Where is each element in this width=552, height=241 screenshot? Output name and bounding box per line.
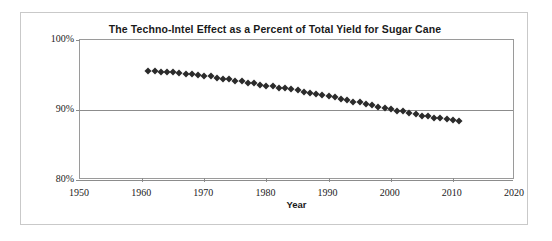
x-tick-label: 2020 bbox=[494, 187, 534, 198]
data-point bbox=[375, 103, 382, 110]
y-tick-mark bbox=[76, 40, 80, 41]
data-point bbox=[207, 73, 214, 80]
y-tick-label: 80% bbox=[22, 173, 74, 184]
x-tick-label: 1980 bbox=[245, 187, 285, 198]
x-tick-mark bbox=[204, 178, 205, 182]
x-tick-label: 1960 bbox=[121, 187, 161, 198]
data-point bbox=[238, 78, 245, 85]
gridline-80% bbox=[80, 180, 513, 181]
x-tick-label: 1950 bbox=[59, 187, 99, 198]
chart-frame: The Techno-Intel Effect as a Percent of … bbox=[20, 12, 528, 225]
x-tick-label: 2000 bbox=[370, 187, 410, 198]
x-tick-mark bbox=[453, 178, 454, 182]
chart-title: The Techno-Intel Effect as a Percent of … bbox=[21, 23, 529, 35]
x-tick-mark bbox=[391, 178, 392, 182]
x-axis-title: Year bbox=[79, 199, 514, 210]
x-tick-label: 1970 bbox=[183, 187, 223, 198]
x-tick-label: 1990 bbox=[308, 187, 348, 198]
y-tick-label: 90% bbox=[22, 103, 74, 114]
chart-screenshot: The Techno-Intel Effect as a Percent of … bbox=[0, 0, 552, 241]
x-tick-mark bbox=[266, 178, 267, 182]
data-point bbox=[412, 111, 419, 118]
data-point bbox=[456, 117, 463, 124]
y-tick-mark bbox=[76, 180, 80, 181]
x-tick-label: 2010 bbox=[432, 187, 472, 198]
x-tick-mark bbox=[329, 178, 330, 182]
y-tick-mark bbox=[76, 110, 80, 111]
y-tick-label: 100% bbox=[22, 33, 74, 44]
data-point bbox=[356, 99, 363, 106]
x-tick-mark bbox=[142, 178, 143, 182]
gridline-90% bbox=[80, 110, 513, 111]
data-point bbox=[269, 83, 276, 90]
plot-area: 80%90%100% bbox=[79, 39, 514, 179]
data-point bbox=[294, 87, 301, 94]
